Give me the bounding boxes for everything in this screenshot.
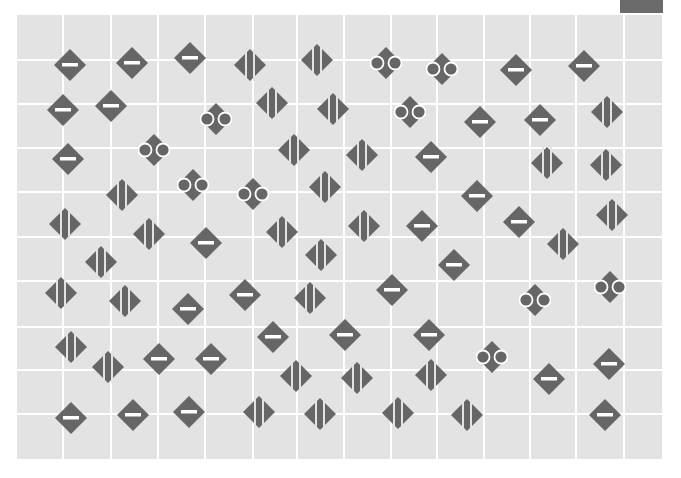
game-piece-stripe[interactable] <box>346 139 378 171</box>
game-piece-stripe[interactable] <box>55 331 87 363</box>
game-piece-stripe[interactable] <box>341 362 373 394</box>
game-piece-circles[interactable] <box>476 341 504 369</box>
game-piece-dash[interactable] <box>174 42 206 74</box>
game-piece-dash[interactable] <box>54 49 86 81</box>
diamond-stripes-icon <box>85 246 117 278</box>
game-piece-stripe[interactable] <box>280 360 312 392</box>
diamond-bar-icon <box>173 396 205 428</box>
diamond-stripes-icon <box>547 228 579 260</box>
game-piece-stripe[interactable] <box>304 398 336 430</box>
grid-line-horizontal <box>17 413 662 415</box>
game-piece-dash[interactable] <box>438 249 470 281</box>
game-piece-dash[interactable] <box>406 210 438 242</box>
diamond-stripes-icon <box>49 208 81 240</box>
game-piece-stripe[interactable] <box>256 87 288 119</box>
game-piece-dash[interactable] <box>116 47 148 79</box>
game-piece-dash[interactable] <box>117 399 149 431</box>
diamond-rings-icon <box>426 53 458 85</box>
game-piece-dash[interactable] <box>229 279 261 311</box>
diamond-bar-icon <box>47 94 79 126</box>
game-piece-dash[interactable] <box>376 274 408 306</box>
game-piece-circles[interactable] <box>237 178 265 206</box>
game-piece-dash[interactable] <box>461 180 493 212</box>
game-piece-dash[interactable] <box>533 363 565 395</box>
game-piece-circles[interactable] <box>394 96 422 124</box>
game-piece-stripe[interactable] <box>49 208 81 240</box>
game-piece-dash[interactable] <box>52 143 84 175</box>
game-piece-stripe[interactable] <box>348 210 380 242</box>
diamond-rings-icon <box>177 169 209 201</box>
game-piece-dash[interactable] <box>464 106 496 138</box>
diamond-stripes-icon <box>451 399 483 431</box>
game-piece-dash[interactable] <box>172 293 204 325</box>
game-piece-stripe[interactable] <box>301 44 333 76</box>
game-piece-dash[interactable] <box>329 319 361 351</box>
game-piece-dash[interactable] <box>413 319 445 351</box>
game-piece-dash[interactable] <box>47 94 79 126</box>
game-piece-dash[interactable] <box>190 227 222 259</box>
game-piece-circles[interactable] <box>370 47 398 75</box>
diamond-bar-icon <box>376 274 408 306</box>
game-piece-dash[interactable] <box>257 321 289 353</box>
game-piece-dash[interactable] <box>500 54 532 86</box>
diamond-rings-icon <box>394 96 426 128</box>
game-piece-stripe[interactable] <box>590 149 622 181</box>
game-piece-circles[interactable] <box>200 103 228 131</box>
game-piece-stripe[interactable] <box>85 246 117 278</box>
diamond-rings-icon <box>594 271 626 303</box>
game-piece-dash[interactable] <box>593 348 625 380</box>
diamond-bar-icon <box>174 42 206 74</box>
game-piece-circles[interactable] <box>426 53 454 81</box>
game-piece-dash[interactable] <box>568 50 600 82</box>
diamond-bar-icon <box>524 104 556 136</box>
game-piece-stripe[interactable] <box>591 96 623 128</box>
game-piece-stripe[interactable] <box>382 397 414 429</box>
diamond-stripes-icon <box>317 93 349 125</box>
game-piece-stripe[interactable] <box>309 171 341 203</box>
game-piece-dash[interactable] <box>173 396 205 428</box>
diamond-stripes-icon <box>346 139 378 171</box>
game-piece-stripe[interactable] <box>294 282 326 314</box>
game-piece-stripe[interactable] <box>234 49 266 81</box>
game-piece-dash[interactable] <box>95 90 127 122</box>
game-piece-stripe[interactable] <box>451 399 483 431</box>
diamond-bar-icon <box>55 402 87 434</box>
game-piece-stripe[interactable] <box>305 239 337 271</box>
game-piece-stripe[interactable] <box>109 285 141 317</box>
game-piece-dash[interactable] <box>55 402 87 434</box>
game-piece-stripe[interactable] <box>596 199 628 231</box>
game-piece-stripe[interactable] <box>243 396 275 428</box>
diamond-stripes-icon <box>106 179 138 211</box>
game-piece-stripe[interactable] <box>278 134 310 166</box>
game-piece-stripe[interactable] <box>92 351 124 383</box>
diamond-stripes-icon <box>234 49 266 81</box>
game-piece-stripe[interactable] <box>317 93 349 125</box>
game-piece-dash[interactable] <box>503 206 535 238</box>
game-piece-stripe[interactable] <box>531 147 563 179</box>
game-piece-stripe[interactable] <box>45 277 77 309</box>
game-piece-circles[interactable] <box>594 271 622 299</box>
game-piece-stripe[interactable] <box>415 359 447 391</box>
game-piece-dash[interactable] <box>143 343 175 375</box>
game-piece-circles[interactable] <box>519 284 547 312</box>
diamond-stripes-icon <box>256 87 288 119</box>
game-piece-stripe[interactable] <box>547 228 579 260</box>
game-piece-dash[interactable] <box>195 343 227 375</box>
diamond-stripes-icon <box>301 44 333 76</box>
grid-line-horizontal <box>17 59 662 61</box>
game-piece-dash[interactable] <box>589 399 621 431</box>
game-piece-circles[interactable] <box>177 169 205 197</box>
diamond-bar-icon <box>413 319 445 351</box>
game-piece-dash[interactable] <box>415 141 447 173</box>
game-piece-stripe[interactable] <box>133 218 165 250</box>
diamond-stripes-icon <box>280 360 312 392</box>
game-piece-stripe[interactable] <box>266 216 298 248</box>
diamond-bar-icon <box>172 293 204 325</box>
game-piece-circles[interactable] <box>138 134 166 162</box>
diamond-stripes-icon <box>278 134 310 166</box>
diamond-bar-icon <box>329 319 361 351</box>
diamond-bar-icon <box>190 227 222 259</box>
game-piece-dash[interactable] <box>524 104 556 136</box>
diamond-bar-icon <box>464 106 496 138</box>
game-piece-stripe[interactable] <box>106 179 138 211</box>
